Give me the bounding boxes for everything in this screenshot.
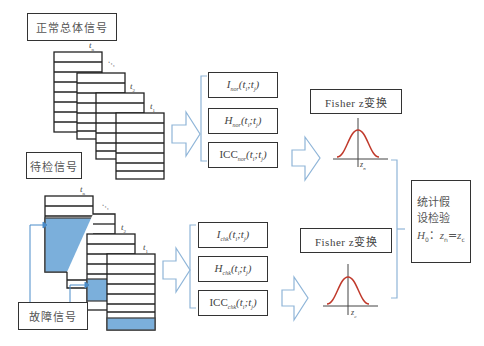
block-arrow-top-left [172, 112, 200, 156]
test-signal-label: 待检信号 [30, 158, 78, 174]
bracket-right [391, 160, 405, 298]
feature-box-ICC-chk: ICCchk(ti;tj) [198, 290, 268, 316]
bracket-top [201, 76, 207, 161]
top-label-t2: t2 [130, 81, 135, 93]
block-arrow-bottom-left [163, 248, 190, 292]
formula-H-chk: Hchk(ti;tj) [215, 262, 252, 276]
feature-box-I-nor: Inor(ti;tj) [208, 72, 278, 98]
fault-signal-box: 故障信号 [18, 302, 88, 330]
bottom-grid-1 [107, 254, 155, 330]
top-label-tn: tn [89, 40, 94, 52]
fisher-box-top: Fisher z变换 [310, 89, 402, 114]
bottom-label-t2: t2 [121, 222, 126, 234]
fault-signal-label: 故障信号 [29, 308, 77, 324]
feature-box-H-chk: Hchk(ti;tj) [198, 256, 268, 282]
normal-signal-box: 正常总体信号 [27, 13, 117, 41]
fisher-label-top: Fisher z变换 [325, 94, 387, 110]
bottom-label-tn: tn [80, 184, 85, 196]
formula-I-chk: Ichk(ti;tj) [217, 228, 249, 242]
bracket-bottom [190, 225, 196, 308]
fisher-box-bottom: Fisher z变换 [300, 228, 392, 253]
z-label-top: zn [360, 160, 366, 171]
formula-H-nor: Hnor(ti;tj) [225, 114, 262, 128]
block-arrow-bottom-mid [282, 277, 308, 320]
hypothesis-line2: 设检验 [417, 211, 465, 227]
bottom-label-t1: t1 [143, 242, 148, 254]
hypothesis-line1: 统计假 [417, 195, 465, 211]
formula-ICC-nor: ICCnor(ti;tj) [219, 148, 266, 162]
feature-box-H-nor: Hnor(ti;tj) [208, 108, 278, 134]
formula-ICC-chk: ICCchk(ti;tj) [209, 296, 256, 310]
top-label-t1: t1 [150, 101, 155, 113]
hypothesis-h0: H0：zn=zc [417, 227, 465, 248]
feature-box-ICC-nor: ICCnor(ti;tj) [208, 142, 278, 168]
hypothesis-test-box: 统计假 设检验 H0：zn=zc [411, 180, 471, 263]
fisher-label-bottom: Fisher z变换 [315, 233, 377, 249]
hypothesis-text: 统计假 设检验 H0：zn=zc [417, 195, 465, 248]
block-arrow-top-mid [292, 137, 320, 180]
formula-I-nor: Inor(ti;tj) [227, 78, 260, 92]
top-grid-1 [116, 113, 164, 179]
feature-box-I-chk: Ichk(ti;tj) [198, 222, 268, 248]
normal-signal-label: 正常总体信号 [36, 19, 108, 35]
z-label-bottom: zc [351, 308, 356, 319]
test-signal-box: 待检信号 [26, 152, 82, 179]
